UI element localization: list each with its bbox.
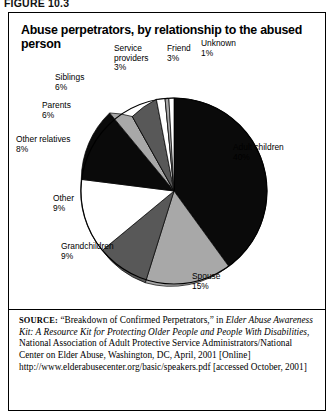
source-citation: SOURCE: “Breakdown of Confirmed Perpetra… [19, 315, 316, 374]
pie-label-friend: Friend 3% [167, 44, 191, 63]
source-url: http://www.elderabusecenter.org/basic/sp… [19, 362, 316, 374]
source-divider [9, 309, 325, 310]
pie-label-siblings: Siblings 6% [55, 73, 84, 92]
pie-label-other: Other 9% [53, 194, 74, 213]
pie-label-other-relatives: Other relatives 8% [16, 135, 70, 154]
pie-label-parents: Parents 6% [42, 101, 71, 120]
source-label: SOURCE: [19, 316, 58, 325]
pie-label-grandchildren: Grandchildren 9% [61, 242, 114, 261]
source-text-part1: “Breakdown of Confirmed Perpetrators,” i… [58, 315, 226, 325]
pie-label-service-providers: Service providers 3% [114, 44, 148, 73]
pie-label-spouse: Spouse 15% [192, 272, 220, 291]
pie-label-unknown: Unknown 1% [201, 39, 236, 58]
pie-label-adult-children: Adult children 40% [233, 143, 284, 162]
pie-chart: Service providers 3% Friend 3% Unknown 1… [9, 39, 325, 311]
figure-number-caption: FIGURE 10.3 [4, 0, 69, 9]
figure-container: Abuse perpetrators, by relationship to t… [8, 12, 326, 411]
